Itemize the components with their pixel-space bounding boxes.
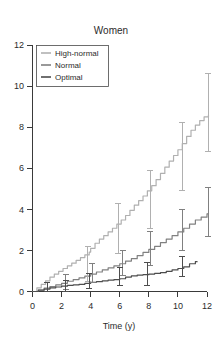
y-tick-label: 2 bbox=[19, 246, 24, 256]
legend-label: Optimal bbox=[55, 73, 83, 82]
y-tick-label: 12 bbox=[14, 40, 24, 50]
legend-label: High-normal bbox=[55, 49, 99, 58]
y-tick-label: 10 bbox=[14, 81, 24, 91]
legend-label: Normal bbox=[55, 61, 81, 70]
x-tick-label: 4 bbox=[88, 301, 93, 311]
y-tick-label: 6 bbox=[19, 163, 24, 173]
chart-legend: High-normalNormalOptimal bbox=[37, 46, 109, 87]
y-tick-label: 4 bbox=[19, 205, 24, 215]
chart-figure: Women 024681012 024681012 Time (y) High-… bbox=[0, 0, 223, 340]
chart-background bbox=[0, 0, 223, 340]
x-tick-label: 12 bbox=[202, 301, 212, 311]
y-tick-label: 8 bbox=[19, 122, 24, 132]
cumulative-incidence-chart: Women 024681012 024681012 Time (y) High-… bbox=[0, 0, 223, 340]
chart-title: Women bbox=[94, 25, 128, 36]
x-tick-label: 6 bbox=[117, 301, 122, 311]
y-tick-label: 0 bbox=[19, 287, 24, 297]
x-tick-label: 10 bbox=[173, 301, 183, 311]
x-axis-title: Time (y) bbox=[103, 321, 136, 331]
x-tick-label: 2 bbox=[59, 301, 64, 311]
x-tick-label: 0 bbox=[30, 301, 35, 311]
x-tick-label: 8 bbox=[146, 301, 151, 311]
